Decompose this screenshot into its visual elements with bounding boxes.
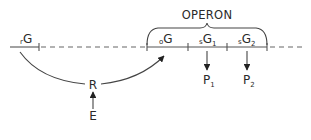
gene-label-regulator: rG bbox=[20, 32, 32, 46]
gene-label-structural-1: sG1 bbox=[199, 32, 216, 48]
operon-diagram: OPERON rG oG sG1 sG2 R E P1 P2 bbox=[0, 0, 311, 140]
repressor-label: R bbox=[89, 78, 97, 92]
effector-label: E bbox=[89, 109, 97, 123]
product-label-2: P2 bbox=[243, 73, 255, 89]
gene-label-operator: oG bbox=[159, 32, 173, 46]
dna-strand bbox=[10, 43, 306, 51]
operon-label: OPERON bbox=[182, 8, 233, 22]
product-label-1: P1 bbox=[203, 73, 215, 89]
gene-label-structural-2: sG2 bbox=[238, 32, 255, 48]
repressor-to-operator-arrow bbox=[101, 56, 164, 84]
regulator-to-repressor-arc bbox=[20, 52, 85, 84]
